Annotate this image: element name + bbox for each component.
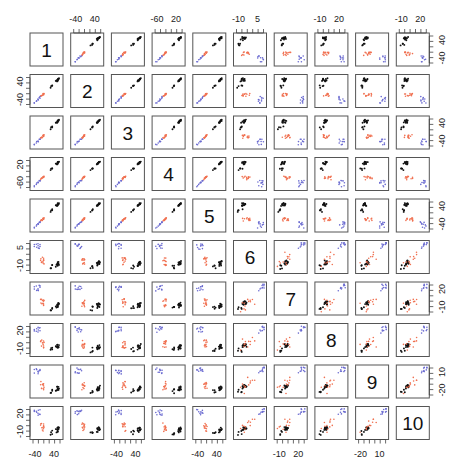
data-point bbox=[341, 413, 343, 415]
data-point bbox=[403, 126, 405, 128]
data-point bbox=[202, 96, 204, 98]
data-point bbox=[132, 347, 134, 349]
data-point bbox=[204, 94, 206, 96]
data-point bbox=[322, 267, 324, 269]
data-point bbox=[36, 368, 38, 370]
data-point bbox=[287, 258, 289, 260]
data-point bbox=[122, 424, 124, 426]
data-point bbox=[302, 55, 304, 57]
data-point bbox=[56, 80, 58, 82]
scatter-panel-10-4 bbox=[152, 407, 185, 440]
data-point bbox=[283, 80, 285, 82]
data-point bbox=[162, 422, 164, 424]
data-point bbox=[132, 430, 134, 432]
data-point bbox=[132, 433, 134, 435]
data-point bbox=[283, 93, 285, 95]
data-point bbox=[287, 262, 289, 264]
data-point bbox=[173, 434, 175, 436]
data-point bbox=[218, 387, 220, 389]
data-point bbox=[79, 139, 81, 141]
bottom-axis-col-3: -4040 bbox=[110, 440, 142, 459]
data-point bbox=[115, 245, 117, 247]
data-point bbox=[385, 325, 387, 327]
data-point bbox=[160, 99, 162, 101]
data-point bbox=[180, 345, 182, 347]
data-point bbox=[423, 327, 425, 329]
data-point bbox=[218, 122, 220, 124]
data-point bbox=[198, 411, 200, 413]
data-point bbox=[56, 431, 58, 433]
data-point bbox=[124, 260, 126, 262]
data-point bbox=[157, 142, 159, 144]
data-point bbox=[302, 96, 304, 98]
data-point bbox=[76, 225, 78, 227]
data-point bbox=[401, 308, 403, 310]
data-point bbox=[74, 413, 76, 415]
data-point bbox=[205, 386, 207, 388]
variable-label: 6 bbox=[245, 247, 256, 268]
data-point bbox=[278, 126, 280, 128]
data-point bbox=[410, 264, 412, 266]
data-point bbox=[78, 286, 80, 288]
data-point bbox=[34, 227, 36, 229]
data-point bbox=[83, 304, 85, 306]
data-point bbox=[298, 372, 300, 374]
data-point bbox=[160, 57, 162, 59]
data-point bbox=[258, 55, 260, 57]
data-point bbox=[421, 141, 423, 143]
scatter-panel-9-3 bbox=[111, 365, 144, 398]
data-point bbox=[165, 388, 167, 390]
data-point bbox=[290, 52, 292, 54]
data-point bbox=[319, 84, 321, 86]
data-point bbox=[196, 244, 198, 246]
data-point bbox=[341, 186, 343, 188]
data-point bbox=[132, 209, 134, 211]
scatter-panel-9-6 bbox=[234, 365, 267, 398]
data-point bbox=[284, 161, 286, 163]
data-point bbox=[81, 221, 83, 223]
data-point bbox=[385, 408, 387, 410]
data-point bbox=[381, 223, 383, 225]
data-point bbox=[338, 181, 340, 183]
data-point bbox=[366, 428, 368, 430]
data-point bbox=[132, 264, 134, 266]
data-point bbox=[122, 53, 124, 55]
top-axis-col-8: -1020 bbox=[313, 14, 345, 33]
data-point bbox=[325, 36, 327, 38]
data-point bbox=[220, 303, 222, 305]
data-point bbox=[420, 142, 422, 144]
data-point bbox=[409, 262, 411, 264]
data-point bbox=[34, 244, 36, 246]
data-point bbox=[196, 102, 198, 104]
data-point bbox=[56, 304, 58, 306]
data-point bbox=[329, 384, 331, 386]
data-point bbox=[82, 430, 84, 432]
data-point bbox=[159, 326, 161, 328]
data-point bbox=[262, 409, 264, 411]
scatter-panel-10-6 bbox=[234, 407, 267, 440]
data-point bbox=[164, 386, 166, 388]
data-point bbox=[362, 211, 364, 213]
data-point bbox=[137, 80, 139, 82]
data-point bbox=[323, 303, 325, 305]
data-point bbox=[78, 244, 80, 246]
data-point bbox=[252, 418, 254, 420]
data-point bbox=[286, 179, 288, 181]
data-point bbox=[250, 301, 252, 303]
data-point bbox=[282, 94, 284, 96]
data-point bbox=[200, 288, 202, 290]
data-point bbox=[241, 55, 243, 57]
data-point bbox=[383, 226, 385, 228]
data-point bbox=[137, 349, 139, 351]
data-point bbox=[246, 94, 248, 96]
data-point bbox=[82, 427, 84, 429]
data-point bbox=[369, 302, 371, 304]
data-point bbox=[424, 59, 426, 61]
data-point bbox=[414, 384, 416, 386]
data-point bbox=[200, 245, 202, 247]
data-point bbox=[282, 202, 284, 204]
data-point bbox=[212, 87, 214, 89]
data-point bbox=[285, 55, 287, 57]
data-point bbox=[362, 80, 364, 82]
data-point bbox=[304, 243, 306, 245]
